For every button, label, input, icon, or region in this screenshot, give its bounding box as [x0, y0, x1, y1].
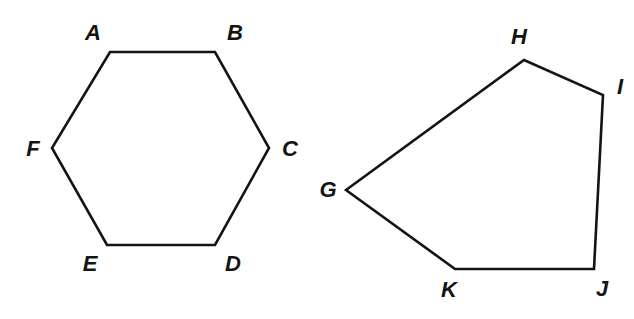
vertex-label-k: K	[441, 279, 457, 301]
vertex-label-a: A	[85, 22, 101, 44]
vertex-label-g: G	[319, 179, 336, 201]
geometry-figure-canvas: ABCDEFGHIJK	[0, 0, 634, 319]
vertex-label-h: H	[511, 26, 527, 48]
vertex-label-d: D	[225, 253, 241, 275]
vertex-label-c: C	[282, 138, 298, 160]
vertex-label-b: B	[227, 22, 243, 44]
vertex-label-i: I	[617, 76, 623, 98]
vertex-label-e: E	[83, 253, 98, 275]
vertex-label-j: J	[596, 278, 608, 300]
vertex-label-f: F	[26, 138, 39, 160]
